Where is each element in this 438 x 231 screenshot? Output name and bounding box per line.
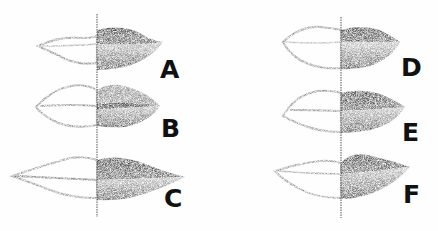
label-b: B xyxy=(161,116,180,141)
label-e: E xyxy=(402,120,419,145)
label-c: C xyxy=(164,186,182,211)
lips-a xyxy=(38,28,163,70)
lips-e xyxy=(283,91,405,133)
lips-f xyxy=(275,154,410,199)
lips-c xyxy=(12,157,185,200)
lips-drawing xyxy=(0,0,438,231)
lips-study-figure: A B C D E F xyxy=(0,0,438,231)
label-a: A xyxy=(160,57,179,82)
lips-b xyxy=(36,85,160,127)
label-f: F xyxy=(403,182,420,207)
label-d: D xyxy=(401,55,422,80)
lips-d xyxy=(283,27,400,69)
